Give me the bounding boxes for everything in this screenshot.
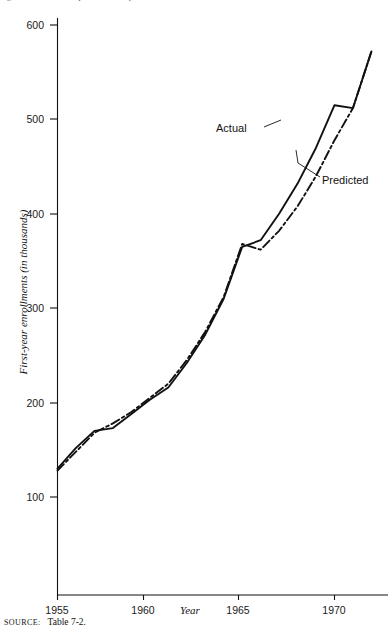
source-note: Source:Table 7-2. xyxy=(4,617,86,627)
x-axis-ticks xyxy=(58,595,335,600)
y-axis-title: First-year enrollments (in thousands) xyxy=(17,207,29,377)
y-axis-ticks xyxy=(50,25,57,497)
y-tick-label-600: 600 xyxy=(10,19,44,31)
y-tick-label-200: 200 xyxy=(10,397,44,409)
source-value: Table 7-2. xyxy=(48,617,86,627)
leader-line-actual xyxy=(264,120,281,127)
chart-plot-area: 600 500 400 300 200 100 1955 1960 1965 1… xyxy=(0,0,388,600)
series-line-predicted xyxy=(58,51,372,470)
x-axis-title: Year xyxy=(150,604,230,616)
source-label: Source: xyxy=(4,618,41,627)
x-tick-label-1970: 1970 xyxy=(314,604,354,616)
series-line-actual xyxy=(58,51,372,468)
y-tick-label-500: 500 xyxy=(10,113,44,125)
series-label-predicted: Predicted xyxy=(322,174,368,186)
x-tick-label-1955: 1955 xyxy=(37,604,77,616)
y-tick-label-100: 100 xyxy=(10,491,44,503)
axis-lines xyxy=(57,18,388,595)
enrollment-line-chart xyxy=(0,0,388,600)
series-label-actual: Actual xyxy=(216,122,247,134)
